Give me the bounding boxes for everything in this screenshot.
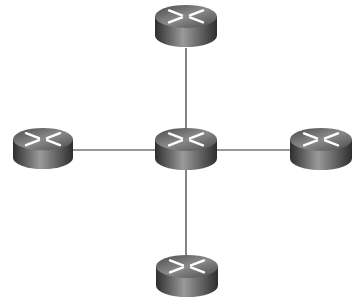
router-right[interactable] xyxy=(289,127,353,171)
router-icon xyxy=(154,127,218,171)
router-icon xyxy=(289,127,353,171)
router-icon xyxy=(154,4,218,48)
router-left[interactable] xyxy=(12,127,74,170)
router-icon xyxy=(12,127,74,170)
router-top[interactable] xyxy=(154,4,218,48)
network-diagram xyxy=(0,0,362,302)
router-center[interactable] xyxy=(154,127,218,171)
router-icon xyxy=(155,254,219,298)
router-bottom[interactable] xyxy=(155,254,219,298)
